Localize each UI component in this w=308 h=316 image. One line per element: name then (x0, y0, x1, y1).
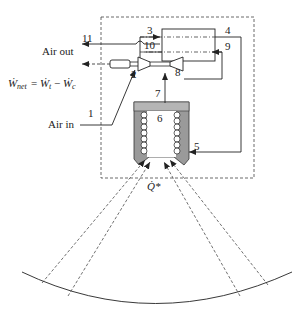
system-diagram: Air out Air in Ẇ net = Ẇ t − Ẇ c Q̇* 1 2… (0, 0, 308, 316)
svg-text:t: t (49, 82, 52, 91)
svg-text:net: net (17, 82, 28, 91)
label-air-out: Air out (42, 45, 73, 57)
state-8: 8 (175, 66, 181, 78)
state-7: 7 (155, 87, 161, 99)
state-5: 5 (194, 140, 200, 152)
state-2: 2 (131, 68, 137, 80)
state-3: 3 (147, 24, 153, 36)
state-11: 11 (82, 32, 93, 44)
svg-text:c: c (72, 82, 76, 91)
heliostat-field (22, 272, 292, 304)
state-10: 10 (144, 39, 156, 51)
label-work-equation: Ẇ net = Ẇ t − Ẇ c (8, 77, 76, 91)
state-4: 4 (225, 24, 231, 36)
generator (110, 60, 130, 68)
svg-text:=: = (31, 77, 37, 89)
label-q-star: Q̇* (147, 180, 161, 192)
compressor (138, 57, 150, 71)
state-1: 1 (88, 107, 94, 119)
recuperator (162, 29, 215, 61)
state-6: 6 (157, 112, 163, 124)
state-9: 9 (225, 40, 231, 52)
svg-text:−: − (54, 77, 60, 89)
label-air-in: Air in (48, 118, 74, 130)
